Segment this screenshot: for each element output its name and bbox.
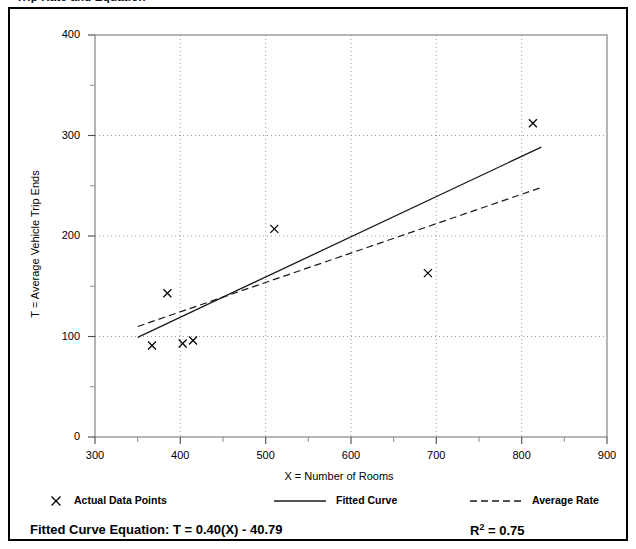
scatter-chart-svg — [0, 0, 636, 549]
series-line-average-rate — [138, 188, 542, 327]
xtick-label-300: 300 — [70, 450, 120, 461]
equation-row: Fitted Curve Equation: T = 0.40(X) - 40.… — [0, 519, 636, 545]
y-axis-major-ticks — [88, 35, 95, 437]
fitted-curve-equation-label: Fitted Curve Equation: T = 0.40(X) - 40.… — [30, 522, 282, 537]
xtick-label-600: 600 — [326, 450, 376, 461]
chart-legend: Actual Data Points Fitted Curve Average … — [0, 492, 636, 514]
legend-label-average-rate: Average Rate — [532, 494, 599, 506]
legend-label-actual-data-points: Actual Data Points — [74, 494, 167, 506]
data-point-marker — [424, 269, 432, 277]
x-axis-title-text: X = Number of Rooms — [242, 470, 393, 482]
data-point-marker — [163, 289, 171, 297]
y-axis-title: T = Average Vehicle Trip Ends — [29, 134, 41, 354]
r-squared-label: R2 = 0.75 — [470, 522, 525, 538]
xtick-label-500: 500 — [241, 450, 291, 461]
r-squared-value: = 0.75 — [484, 523, 524, 538]
data-point-marker — [148, 342, 156, 350]
xtick-label-700: 700 — [411, 450, 461, 461]
chart-plot-region: 0 100 200 300 400 300 400 500 600 700 80… — [0, 0, 636, 549]
x-axis-title: X = Number of Rooms — [0, 470, 636, 482]
x-marker-icon — [48, 492, 64, 508]
r-squared-letter: R — [470, 523, 479, 538]
xtick-label-400: 400 — [155, 450, 205, 461]
ytick-label-0: 0 — [34, 431, 80, 442]
ytick-label-400: 400 — [34, 29, 80, 40]
data-point-marker — [529, 119, 537, 127]
data-point-marker — [270, 225, 278, 233]
legend-label-fitted-curve: Fitted Curve — [336, 494, 397, 506]
solid-line-icon — [272, 492, 328, 508]
data-point-marker — [189, 337, 197, 345]
xtick-label-800: 800 — [497, 450, 547, 461]
dashed-line-icon — [468, 492, 524, 508]
x-axis-major-ticks — [95, 437, 607, 444]
xtick-label-900: 900 — [582, 450, 632, 461]
series-line-fitted-curve — [138, 147, 542, 337]
series-scatter-actual-data-points — [148, 119, 537, 349]
